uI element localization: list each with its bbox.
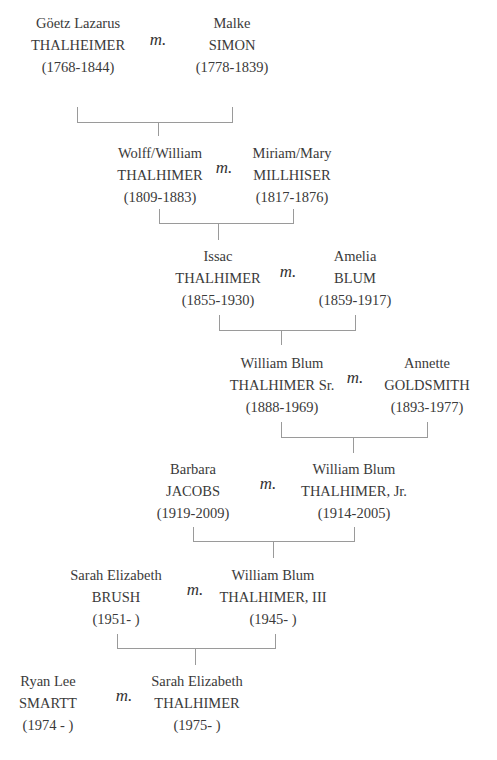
dates: (1888-1969): [230, 396, 335, 418]
person-william-blum-thalhimer-sr: William Blum THALHIMER Sr. (1888-1969): [230, 352, 335, 418]
given-name: Wolff/William: [117, 142, 202, 164]
connector-line: [77, 122, 233, 123]
given-name: William Blum: [230, 352, 335, 374]
connector-line: [281, 422, 282, 437]
given-name: Barbara: [157, 458, 230, 480]
dates: (1975- ): [151, 714, 242, 736]
connector-line: [219, 330, 356, 331]
dates: (1893-1977): [384, 396, 469, 418]
given-name: Sarah Elizabeth: [70, 564, 161, 586]
person-ryan-lee-smartt: Ryan Lee SMARTT (1974 - ): [19, 670, 77, 736]
surname: SMARTT: [19, 692, 77, 714]
person-wolff-william-thalhimer: Wolff/William THALHIMER (1809-1883): [117, 142, 202, 208]
marriage-label: m.: [150, 30, 167, 50]
dates: (1919-2009): [157, 502, 230, 524]
person-issac-thalhimer: Issac THALHIMER (1855-1930): [175, 245, 260, 311]
connector-line: [232, 107, 233, 122]
surname: THALHIMER: [117, 164, 202, 186]
connector-line: [273, 541, 274, 558]
marriage-label: m.: [187, 580, 204, 600]
surname: THALHIMER, Jr.: [301, 480, 407, 502]
surname: SIMON: [196, 34, 269, 56]
person-miriam-mary-millhiser: Miriam/Mary MILLHISER (1817-1876): [253, 142, 332, 208]
connector-line: [427, 422, 428, 437]
person-amelia-blum: Amelia BLUM (1859-1917): [319, 245, 392, 311]
given-name: Annette: [384, 352, 469, 374]
given-name: Göetz Lazarus: [31, 12, 125, 34]
surname: THALHEIMER: [31, 34, 125, 56]
connector-line: [281, 437, 428, 438]
surname: JACOBS: [157, 480, 230, 502]
person-annette-goldsmith: Annette GOLDSMITH (1893-1977): [384, 352, 469, 418]
given-name: Malke: [196, 12, 269, 34]
given-name: Miriam/Mary: [253, 142, 332, 164]
given-name: William Blum: [301, 458, 407, 480]
connector-line: [195, 648, 196, 665]
given-name: Issac: [175, 245, 260, 267]
dates: (1945- ): [219, 608, 326, 630]
dates: (1974 - ): [19, 714, 77, 736]
connector-line: [193, 541, 355, 542]
person-william-blum-thalhimer-jr: William Blum THALHIMER, Jr. (1914-2005): [301, 458, 407, 524]
connector-line: [354, 527, 355, 541]
connector-line: [77, 107, 78, 122]
connector-line: [281, 330, 282, 345]
surname: MILLHISER: [253, 164, 332, 186]
connector-line: [159, 209, 160, 223]
surname: THALHIMER, III: [219, 586, 326, 608]
dates: (1914-2005): [301, 502, 407, 524]
person-sarah-elizabeth-brush: Sarah Elizabeth BRUSH (1951- ): [70, 564, 161, 630]
connector-line: [353, 437, 354, 453]
marriage-label: m.: [260, 474, 277, 494]
connector-line: [219, 315, 220, 330]
given-name: William Blum: [219, 564, 326, 586]
dates: (1951- ): [70, 608, 161, 630]
marriage-label: m.: [280, 262, 297, 282]
person-sarah-elizabeth-thalhimer: Sarah Elizabeth THALHIMER (1975- ): [151, 670, 242, 736]
dates: (1778-1839): [196, 56, 269, 78]
connector-line: [159, 223, 294, 224]
connector-line: [158, 122, 159, 136]
dates: (1817-1876): [253, 186, 332, 208]
person-william-blum-thalhimer-iii: William Blum THALHIMER, III (1945- ): [219, 564, 326, 630]
surname: BLUM: [319, 267, 392, 289]
connector-line: [193, 527, 194, 541]
person-barbara-jacobs: Barbara JACOBS (1919-2009): [157, 458, 230, 524]
dates: (1855-1930): [175, 289, 260, 311]
surname: BRUSH: [70, 586, 161, 608]
person-malke-simon: Malke SIMON (1778-1839): [196, 12, 269, 78]
marriage-label: m.: [347, 368, 364, 388]
person-goetz-lazarus-thalheimer: Göetz Lazarus THALHEIMER (1768-1844): [31, 12, 125, 78]
marriage-label: m.: [116, 686, 133, 706]
given-name: Sarah Elizabeth: [151, 670, 242, 692]
dates: (1859-1917): [319, 289, 392, 311]
surname: THALHIMER: [175, 267, 260, 289]
connector-line: [218, 223, 219, 240]
given-name: Amelia: [319, 245, 392, 267]
marriage-label: m.: [216, 158, 233, 178]
dates: (1809-1883): [117, 186, 202, 208]
given-name: Ryan Lee: [19, 670, 77, 692]
connector-line: [355, 315, 356, 330]
surname: GOLDSMITH: [384, 374, 469, 396]
connector-line: [293, 209, 294, 223]
surname: THALHIMER Sr.: [230, 374, 335, 396]
dates: (1768-1844): [31, 56, 125, 78]
connector-line: [117, 648, 276, 649]
connector-line: [275, 634, 276, 648]
connector-line: [117, 634, 118, 648]
surname: THALHIMER: [151, 692, 242, 714]
